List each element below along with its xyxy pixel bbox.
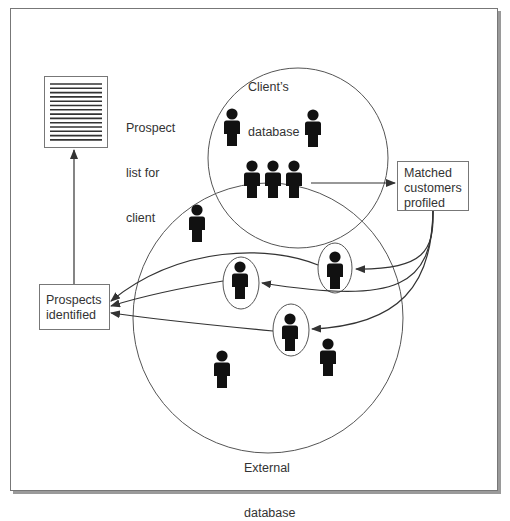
matched-customers-box: Matched customers profiled bbox=[397, 161, 469, 211]
arrow-to-prospect-1 bbox=[356, 211, 433, 269]
client-database-label: Client’s database bbox=[248, 50, 299, 170]
prospect-list-document-icon bbox=[45, 77, 108, 148]
arrow-prospect-2-to-identified bbox=[111, 281, 223, 306]
prospects-identified-box: Prospects identified bbox=[39, 284, 110, 330]
person-icon bbox=[224, 108, 240, 146]
arrow-prospect-1-to-identified bbox=[111, 253, 318, 301]
person-icon bbox=[320, 338, 336, 376]
person-icon bbox=[214, 350, 230, 388]
person-icon bbox=[305, 109, 321, 147]
prospect-list-label: Prospect list for client bbox=[126, 91, 175, 256]
arrow-prospect-3-to-identified bbox=[111, 313, 273, 331]
external-database-label: External database bbox=[244, 431, 295, 521]
person-icon bbox=[189, 204, 205, 242]
